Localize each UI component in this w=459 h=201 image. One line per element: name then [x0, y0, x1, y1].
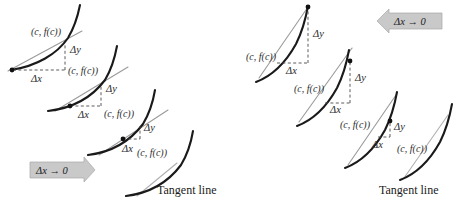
delta-y-label-1: Δy — [69, 44, 81, 55]
secant-to-tangent-figure: (c, f(c)) Δy Δx (c, f(c)) Δy Δx — [0, 0, 459, 201]
secant-endpoint-dot-1 — [10, 68, 15, 73]
secant-endpoint-dot-r3 — [388, 119, 393, 124]
secant-endpoint-dot-3 — [121, 137, 126, 142]
point-label-1: (c, f(c)) — [31, 26, 62, 38]
secant-line-r3 — [348, 95, 396, 165]
right-panel-arrow-callout: Δx → 0 — [377, 9, 442, 33]
left-panel-stage-4: (c, f(c)) Tangent line — [126, 131, 216, 197]
secant-endpoint-dot-r1 — [306, 5, 311, 10]
left-panel-stage-3: (c, f(c)) Δy Δx — [88, 90, 168, 155]
delta-y-label-3: Δy — [143, 122, 155, 133]
delta-y-label-r3: Δy — [393, 121, 405, 132]
delta-y-label-2: Δy — [105, 83, 117, 94]
right-panel-stage-2: (c, f(c)) Δy Δx — [294, 48, 366, 126]
delta-x-label-2: Δx — [77, 109, 89, 120]
delta-y-label-r1: Δy — [312, 28, 324, 39]
secant-endpoint-dot-2 — [68, 104, 73, 109]
point-label-r1: (c, f(c)) — [246, 51, 277, 63]
right-panel-stage-1: (c, f(c)) Δy Δx — [246, 5, 324, 82]
curve-r3 — [345, 92, 397, 168]
left-panel: (c, f(c)) Δy Δx (c, f(c)) Δy Δx — [8, 5, 216, 197]
arrow-label-left: Δx → 0 — [35, 165, 69, 176]
figure-root: (c, f(c)) Δy Δx (c, f(c)) Δy Δx — [0, 0, 459, 201]
left-panel-arrow-callout: Δx → 0 — [30, 157, 95, 182]
point-label-3: (c, f(c)) — [104, 108, 135, 120]
curve-r4 — [400, 104, 452, 180]
delta-y-label-r2: Δy — [354, 72, 366, 83]
curve-2 — [48, 46, 117, 111]
delta-x-label-3: Δx — [121, 143, 133, 154]
point-label-4: (c, f(c)) — [137, 147, 168, 159]
right-panel-stage-3: (c, f(c)) Δy Δx — [340, 92, 405, 168]
secant-line-r1 — [259, 7, 308, 78]
tangent-line-label-right: Tangent line — [379, 183, 438, 197]
point-label-r4: (c, f(c)) — [397, 143, 428, 155]
arrow-label-right: Δx → 0 — [393, 16, 427, 27]
delta-x-label-1: Δx — [30, 73, 42, 84]
delta-x-label-r1: Δx — [285, 65, 297, 76]
delta-x-label-r3: Δx — [371, 139, 383, 150]
point-label-2: (c, f(c)) — [68, 65, 99, 77]
tangent-line-label-left: Tangent line — [157, 183, 216, 197]
right-panel: (c, f(c)) Δy Δx (c, f(c)) Δy Δx — [246, 5, 452, 197]
secant-endpoint-dot-r2 — [348, 59, 353, 64]
delta-x-label-r2: Δx — [329, 104, 341, 115]
point-label-r3: (c, f(c)) — [340, 119, 371, 131]
point-label-r2: (c, f(c)) — [294, 83, 325, 95]
